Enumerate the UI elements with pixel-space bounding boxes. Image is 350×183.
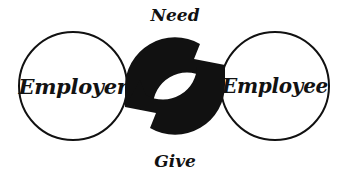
- node-employer: Employer: [18, 31, 128, 141]
- flow-label-need: Need: [115, 5, 235, 25]
- relationship-cycle-diagram: Employer Employee Need Give: [0, 0, 350, 183]
- node-employee: Employee: [220, 31, 330, 141]
- node-employee-label: Employee: [222, 33, 328, 139]
- node-employer-label: Employer: [20, 33, 126, 139]
- flow-label-give: Give: [115, 151, 235, 171]
- circular-arrows-icon: [122, 33, 228, 139]
